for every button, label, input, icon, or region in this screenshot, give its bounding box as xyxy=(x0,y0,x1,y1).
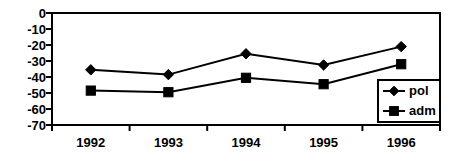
series-layer xyxy=(86,41,407,96)
x-tick-label-1994: 1994 xyxy=(232,135,262,150)
y-tick-label-2: -20 xyxy=(27,38,46,53)
legend-label-pol: pol xyxy=(409,83,429,98)
y-tick-label-1: -10 xyxy=(27,22,46,37)
y-tick-label-3: -30 xyxy=(27,54,46,69)
data-point-square-1993 xyxy=(164,88,173,97)
square-marker-icon xyxy=(390,107,399,116)
y-tick-label-6: -60 xyxy=(27,102,46,117)
data-point-diamond-1992 xyxy=(86,65,96,75)
x-tick-label-1993: 1993 xyxy=(154,135,183,150)
data-point-diamond-1994 xyxy=(241,49,251,59)
data-point-diamond-1993 xyxy=(163,69,173,79)
chart-canvas: 0 -10 -20 -30 -40 -50 -60 -70 xyxy=(0,0,464,160)
legend: pol adm xyxy=(378,80,440,122)
y-axis-tick-labels: 0 -10 -20 -30 -40 -50 -60 -70 xyxy=(27,6,46,133)
data-point-square-1992 xyxy=(86,86,95,95)
x-tick-label-1992: 1992 xyxy=(76,135,105,150)
y-tick-label-7: -70 xyxy=(27,118,46,133)
data-point-square-1996 xyxy=(397,60,406,69)
y-tick-label-5: -50 xyxy=(27,86,46,101)
x-tick-label-1996: 1996 xyxy=(387,135,416,150)
legend-label-adm: adm xyxy=(409,103,436,118)
y-tick-label-4: -40 xyxy=(27,70,46,85)
data-point-square-1995 xyxy=(319,80,328,89)
x-axis-category-labels: 1992 1993 1994 1995 1996 xyxy=(76,135,415,150)
line-chart: 0 -10 -20 -30 -40 -50 -60 -70 xyxy=(0,0,464,160)
series-adm xyxy=(86,60,406,97)
data-point-square-1994 xyxy=(241,73,250,82)
data-point-diamond-1996 xyxy=(396,41,406,51)
y-tick-label-0: 0 xyxy=(39,6,46,21)
data-point-diamond-1995 xyxy=(318,60,328,70)
x-tick-label-1995: 1995 xyxy=(309,135,338,150)
